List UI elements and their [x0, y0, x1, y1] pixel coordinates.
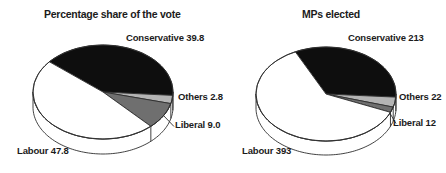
slice-label-liberal: Liberal 12 — [393, 117, 436, 128]
slice-label-labour: Labour 47.8 — [17, 145, 69, 156]
slice-label-others: Others 22 — [399, 91, 441, 102]
slice-label-conservative: Conservative 39.8 — [126, 32, 204, 43]
slice-label-conservative: Conservative 213 — [348, 32, 424, 43]
election-results-figure: Percentage share of the vote Conservativ… — [0, 0, 446, 173]
slice-label-liberal: Liberal 9.0 — [175, 119, 220, 130]
chart-title-vote-share: Percentage share of the vote — [44, 8, 181, 20]
chart-title-mps-elected: MPs elected — [302, 8, 360, 20]
pie-mps-elected — [256, 47, 396, 155]
slice-label-others: Others 2.8 — [178, 91, 223, 102]
pie-vote-share — [33, 45, 174, 154]
slice-label-labour: Labour 393 — [242, 145, 291, 156]
